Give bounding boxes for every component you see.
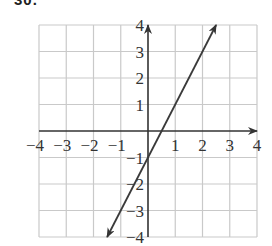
y-tick-label: −4	[126, 228, 145, 246]
x-tick-label: 2	[198, 136, 207, 155]
x-tick-label: −1	[108, 136, 126, 155]
x-tick-label: 4	[253, 136, 262, 155]
x-tick-label: −4	[26, 136, 45, 155]
y-tick-label: 3	[136, 43, 145, 62]
axes	[39, 25, 257, 237]
y-tick-label: −3	[126, 202, 144, 221]
x-tick-label: 1	[171, 136, 180, 155]
x-tick-label: −2	[80, 136, 98, 155]
y-tick-label: −1	[126, 149, 144, 168]
y-tick-label: 1	[136, 96, 145, 115]
coordinate-plane: −4−3−2−112344321−1−2−3−4	[0, 0, 272, 246]
y-tick-label: 4	[136, 16, 145, 35]
x-tick-label: 3	[226, 136, 235, 155]
x-tick-label: −3	[53, 136, 71, 155]
y-tick-label: 2	[136, 69, 145, 88]
